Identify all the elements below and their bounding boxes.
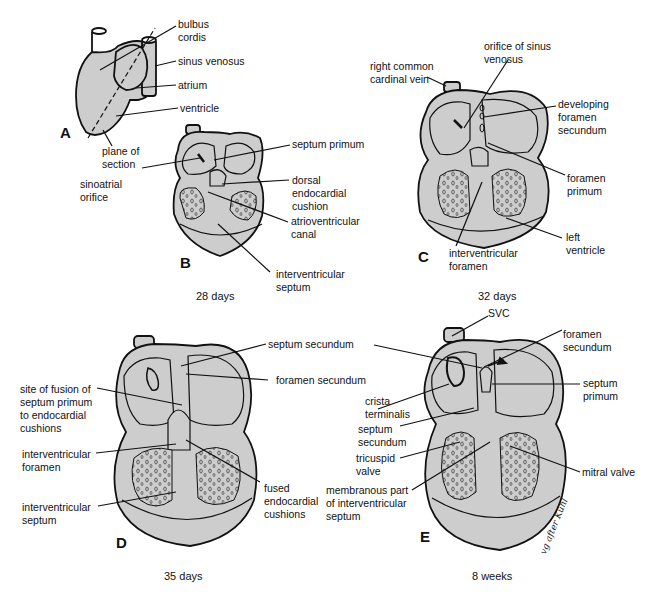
panel-letter-b: B [180, 254, 191, 271]
panel-letter-a: A [60, 124, 71, 141]
label-ventricle: ventricle [180, 102, 219, 115]
label-septum-secundum-d: septum secundum [268, 338, 354, 351]
label-svc: SVC [488, 307, 510, 320]
panel-letter-e: E [420, 528, 430, 545]
panel-d-heart-section [96, 336, 268, 546]
label-right-common-cardinal-vein: right common cardinal vein [370, 60, 434, 86]
label-foramen-primum: foramen primum [567, 172, 606, 198]
label-septum-primum-e: septum primum [583, 377, 618, 403]
caption-8-weeks: 8 weeks [472, 570, 512, 582]
label-interventricular-foramen-d: interventricular foramen [22, 448, 91, 474]
caption-32-days: 32 days [478, 290, 517, 302]
label-sinus-venosus: sinus venosus [178, 55, 245, 68]
panel-e-heart-section [378, 316, 580, 550]
label-septum-primum: septum primum [292, 138, 364, 151]
label-dorsal-endocardial-cushion: dorsal endocardial cushion [292, 174, 346, 213]
label-interventricular-septum-d: interventricular septum [22, 501, 91, 527]
label-foramen-secundum-e: foramen secundum [563, 328, 611, 354]
label-plane-of-section: plane of section [102, 145, 139, 171]
label-mitral-valve: mitral valve [582, 466, 635, 479]
label-bulbus-cordis: bulbus cordis [178, 18, 209, 44]
panel-letter-d: D [116, 534, 127, 551]
panel-c-heart-section [418, 60, 565, 248]
label-crista-terminalis: crista terminalis [365, 395, 410, 421]
label-developing-foramen-secundum: developing foramen secundum [558, 98, 609, 137]
panel-b-heart-section [142, 125, 290, 272]
caption-35-days: 35 days [164, 570, 203, 582]
label-foramen-secundum-d: foramen secundum [276, 374, 366, 387]
label-left-ventricle: left ventricle [566, 231, 605, 257]
figure-canvas: A bulbus cordis sinus venosus atrium ven… [0, 0, 648, 596]
label-site-of-fusion: site of fusion of septum primum to endoc… [20, 383, 92, 435]
label-tricuspid-valve: tricuspid valve [356, 452, 395, 478]
label-interventricular-foramen-c: interventricular foramen [449, 247, 518, 273]
heart-illustrations [0, 0, 648, 596]
label-septum-secundum-e: septum secundum [358, 423, 406, 449]
label-membranous-part: membranous part of interventricular sept… [326, 484, 408, 523]
panel-letter-c: C [418, 248, 429, 265]
label-atrioventricular-canal: atrioventricular canal [291, 215, 360, 241]
label-atrium: atrium [178, 79, 207, 92]
label-fused-endocardial-cushions: fused endocardial cushions [264, 482, 318, 521]
label-orifice-of-sinus-venosus: orifice of sinus venosus [484, 40, 551, 66]
caption-28-days: 28 days [196, 290, 235, 302]
label-sinoatrial-orifice: sinoatrial orifice [80, 178, 122, 204]
panel-a-heart-drawing [76, 26, 178, 146]
label-interventricular-septum-b: interventricular septum [276, 268, 345, 294]
